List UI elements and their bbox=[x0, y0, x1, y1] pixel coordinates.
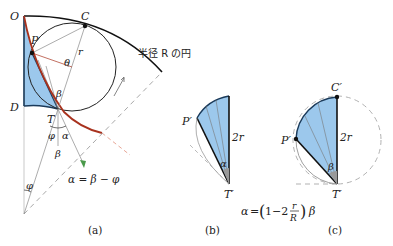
eq-lhs: α bbox=[241, 205, 249, 218]
label-P-prime-c: P′ bbox=[280, 134, 291, 147]
label-beta-lower: β bbox=[54, 148, 61, 159]
point-C bbox=[83, 24, 87, 28]
line-C-T bbox=[58, 26, 85, 109]
label-beta-c: β bbox=[327, 161, 334, 172]
panel-a: O C P D T θ r β φ α β φ 半径 R の円 α = β − … bbox=[9, 10, 191, 236]
green-arrow-head bbox=[80, 160, 86, 168]
label-r: r bbox=[78, 46, 84, 57]
diagram-canvas: O C P D T θ r β φ α β φ 半径 R の円 α = β − … bbox=[0, 0, 393, 246]
label-big-circle: 半径 R の円 bbox=[138, 47, 191, 59]
caption-c: (c) bbox=[328, 224, 342, 236]
label-alpha: α bbox=[62, 130, 69, 141]
eq-numerator: r bbox=[292, 201, 297, 211]
label-D: D bbox=[9, 101, 19, 114]
panel-b: P′ T′ 2r α (b) bbox=[181, 96, 245, 236]
label-2r-b: 2r bbox=[231, 131, 245, 143]
equation-a: α = β − φ bbox=[68, 173, 120, 185]
caption-a: (a) bbox=[88, 224, 102, 236]
label-O: O bbox=[10, 10, 19, 23]
point-P-prime-c bbox=[294, 137, 298, 141]
shared-equation: α = ( 1−2 r R ) β bbox=[241, 201, 315, 223]
eq-one-minus-two: 1−2 bbox=[265, 205, 288, 218]
eq-close-paren: ) bbox=[300, 202, 306, 221]
eq-equals: = bbox=[250, 205, 259, 218]
label-P-prime-b: P′ bbox=[181, 115, 192, 128]
rotation-arrow-icon bbox=[114, 78, 124, 96]
label-T-prime-c: T′ bbox=[332, 188, 342, 201]
eq-denominator: R bbox=[289, 213, 297, 223]
red-tangent-dash bbox=[102, 133, 130, 155]
label-beta: β bbox=[55, 88, 62, 99]
caption-b: (b) bbox=[205, 224, 220, 236]
label-C: C bbox=[81, 10, 90, 23]
label-T-prime-b: T′ bbox=[224, 188, 234, 201]
label-phi: φ bbox=[48, 130, 55, 141]
label-C-prime: C′ bbox=[331, 81, 342, 94]
label-theta: θ bbox=[64, 57, 70, 68]
point-C-prime bbox=[335, 95, 339, 99]
big-circle-arc bbox=[24, 16, 162, 72]
label-P: P bbox=[30, 34, 39, 47]
eq-rhs: β bbox=[308, 205, 315, 218]
label-phi-apex: φ bbox=[26, 180, 33, 191]
label-alpha-b: α bbox=[220, 158, 227, 169]
label-2r-c: 2r bbox=[339, 131, 353, 143]
point-P bbox=[30, 51, 34, 55]
